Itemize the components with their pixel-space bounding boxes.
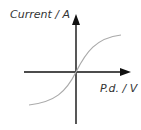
y-axis-label: Current / A xyxy=(10,8,70,21)
iv-characteristic-diagram: Current / A P.d. / V xyxy=(0,0,141,130)
x-axis-label: P.d. / V xyxy=(100,82,139,95)
x-axis-arrow-icon xyxy=(120,68,131,76)
y-axis-arrow-icon xyxy=(72,14,80,25)
